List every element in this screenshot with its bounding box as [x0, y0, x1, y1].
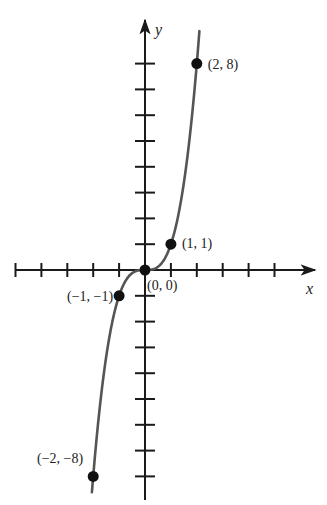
y-axis-label: y — [153, 21, 163, 39]
data-point: (2, 8) — [191, 57, 238, 73]
point-marker — [165, 239, 176, 250]
x-axis-label: x — [305, 280, 313, 297]
point-label: (−2, −8) — [37, 451, 83, 467]
point-label: (1, 1) — [182, 236, 213, 252]
point-label: (−1, −1) — [67, 289, 113, 305]
point-marker — [140, 265, 151, 276]
point-marker — [114, 290, 125, 301]
point-marker — [88, 471, 99, 482]
point-marker — [191, 58, 202, 69]
y-axis: y — [135, 20, 163, 500]
point-label: (2, 8) — [208, 57, 239, 73]
data-point: (−2, −8) — [37, 451, 99, 482]
point-label: (0, 0) — [147, 278, 178, 294]
cubic-function-graph: x y (2, 8)(1, 1)(0, 0)(−1, −1)(−2, −8) — [0, 0, 327, 505]
